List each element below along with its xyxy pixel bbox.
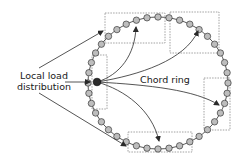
ring-node (98, 41, 104, 47)
source-node (93, 78, 101, 86)
local-load-label-line2: distribution (17, 81, 71, 92)
ring-node (224, 90, 230, 96)
ring-node (155, 146, 161, 152)
ring-node (98, 119, 104, 125)
ring-node (105, 127, 111, 133)
ring-node (211, 41, 217, 47)
chord-ring-diagram: Local load distribution Chord ring (0, 0, 240, 157)
ring-node (144, 145, 150, 151)
ring-node (204, 33, 210, 39)
ring-node (224, 70, 230, 76)
ring-node (176, 17, 182, 23)
ring-node (86, 70, 92, 76)
ring-node (144, 15, 150, 21)
ring-node (211, 119, 217, 125)
ring-node (133, 17, 139, 23)
chord-to-top-left (97, 27, 136, 82)
ring-node (217, 110, 223, 116)
ring-node (92, 50, 98, 56)
ring-node (85, 80, 91, 86)
ring-node (176, 143, 182, 149)
ring-node (217, 50, 223, 56)
pointer-to-bottom-box (39, 93, 126, 146)
ring-node (187, 139, 193, 145)
ring-node (196, 26, 202, 32)
local-load-label-line1: Local load (20, 70, 68, 81)
chord-to-right (97, 82, 219, 105)
ring-node (187, 21, 193, 27)
ring-node (123, 139, 129, 145)
ring-node (196, 133, 202, 139)
ring-node (221, 100, 227, 106)
ring-node (225, 80, 231, 86)
source-node-group (93, 78, 101, 86)
ring-node (88, 59, 94, 65)
ring-node (86, 90, 92, 96)
ring-node (204, 127, 210, 133)
ring-node (166, 15, 172, 21)
ring-node (105, 33, 111, 39)
ring-node (88, 100, 94, 106)
ring-node (114, 26, 120, 32)
ring-node (166, 145, 172, 151)
ring-node (221, 59, 227, 65)
chord-ring-label: Chord ring (140, 74, 190, 85)
ring-node (155, 14, 161, 20)
ring-node (133, 143, 139, 149)
ring-node (92, 110, 98, 116)
ring-node (123, 21, 129, 27)
